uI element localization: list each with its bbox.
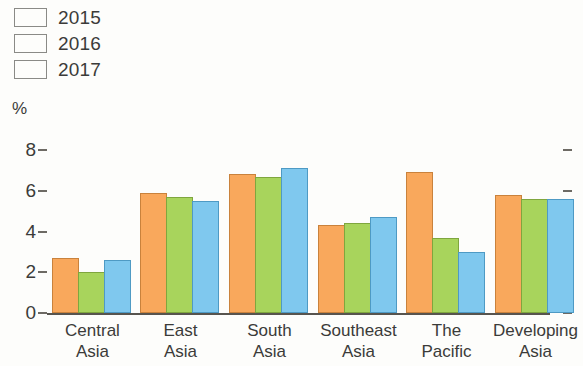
- bar-2016-central-asia: [78, 272, 105, 313]
- bar-2015-central-asia: [52, 258, 79, 313]
- bar-group: [140, 146, 221, 313]
- legend-label-2017: 2017: [58, 60, 101, 79]
- bar-group: [495, 146, 576, 313]
- y-axis-tick-mark-left: [38, 271, 47, 273]
- y-axis-labels: 86420: [8, 0, 36, 366]
- legend-label-2016: 2016: [58, 34, 101, 53]
- bar-2016-southeast-asia: [344, 223, 371, 313]
- bar-2017-developing-asia: [547, 199, 574, 313]
- bar-2017-central-asia: [104, 260, 131, 313]
- bar-2017-south-asia: [281, 168, 308, 313]
- y-axis-tick-mark-left: [38, 312, 47, 314]
- x-axis-category-label: Developing Asia: [476, 320, 583, 362]
- x-axis-baseline: [47, 313, 550, 315]
- bar-2016-developing-asia: [521, 199, 548, 313]
- bar-2016-the-pacific: [432, 238, 459, 313]
- bar-2015-developing-asia: [495, 195, 522, 313]
- bar-2016-south-asia: [255, 177, 282, 314]
- bar-2015-the-pacific: [406, 172, 433, 313]
- y-axis-tick-mark-left: [38, 231, 47, 233]
- y-axis-tick-mark-left: [38, 190, 47, 192]
- bar-2015-east-asia: [140, 193, 167, 313]
- y-axis-tick-label: 2: [25, 261, 36, 283]
- bar-group: [229, 146, 310, 313]
- y-axis-tick-label: 8: [25, 139, 36, 161]
- bar-group: [318, 146, 399, 313]
- bar-group: [52, 146, 133, 313]
- bar-2017-southeast-asia: [370, 217, 397, 313]
- bar-2015-southeast-asia: [318, 225, 345, 313]
- y-axis-tick-label: 6: [25, 180, 36, 202]
- bar-2016-east-asia: [166, 197, 193, 313]
- bar-2017-the-pacific: [458, 252, 485, 313]
- bar-2015-south-asia: [229, 174, 256, 313]
- y-axis-tick-mark-left: [38, 149, 47, 151]
- legend-label-2015: 2015: [58, 8, 101, 27]
- y-axis-tick-label: 4: [25, 221, 36, 243]
- bar-group: [406, 146, 487, 313]
- plot-area: [47, 146, 559, 313]
- bar-2017-east-asia: [192, 201, 219, 313]
